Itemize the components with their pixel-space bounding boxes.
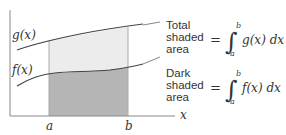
integrand-2: f(x) dx (241, 81, 281, 95)
lower-limit-1: a (230, 49, 235, 58)
f-label: f(x) (11, 63, 33, 77)
dark-leader-line (143, 57, 160, 64)
total-label-line1: Total (166, 19, 190, 31)
lower-limit-2: a (230, 97, 235, 106)
dark-label-line3: area (166, 91, 190, 103)
total-label-line2: shaded (166, 31, 204, 43)
equals-sign-1: = (210, 32, 221, 47)
dark-shaded-region (49, 68, 128, 116)
light-shaded-region (49, 27, 128, 74)
upper-limit-1: b (236, 21, 241, 30)
dark-label-line2: shaded (166, 79, 204, 91)
dark-label-line1: Dark (166, 67, 191, 79)
upper-limit-2: b (236, 69, 241, 78)
tick-a: a (46, 119, 53, 133)
total-label-line3: area (166, 43, 190, 55)
g-label: g(x) (12, 28, 36, 42)
total-leader-line (143, 22, 160, 25)
integrand-1: g(x) dx (242, 33, 284, 47)
x-axis-label: x (180, 108, 187, 122)
area-between-curves-diagram: g(x) f(x) a b x Total shaded area = ∫ b … (0, 0, 286, 135)
tick-b: b (125, 119, 133, 133)
equals-sign-2: = (210, 80, 221, 95)
